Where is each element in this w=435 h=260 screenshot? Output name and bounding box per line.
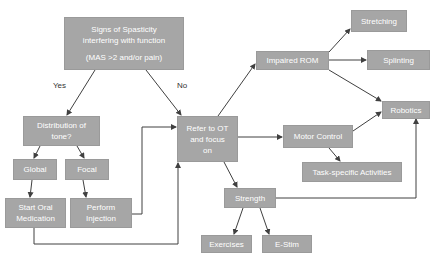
- node-estim-label: E-Stim: [275, 239, 299, 250]
- edge-label-yes: Yes: [53, 81, 66, 90]
- edge-signs-distribution: [67, 70, 95, 115]
- node-task-label: Task-specific Activities: [312, 167, 391, 178]
- edge-refer-strength: [224, 162, 237, 187]
- flowchart-canvas: Signs of Spasticity interfering with fun…: [0, 0, 435, 260]
- node-task-specific-activities: Task-specific Activities: [302, 162, 402, 182]
- node-perform-injection: Perform Injection: [70, 198, 132, 228]
- node-signs-line1: Signs of Spasticity: [83, 24, 165, 35]
- node-start-oral-medication: Start Oral Medication: [5, 198, 66, 228]
- edge-strength-exercises: [234, 208, 243, 234]
- edge-focal-injection: [83, 180, 86, 197]
- node-signs-of-spasticity: Signs of Spasticity interfering with fun…: [64, 17, 184, 70]
- node-motor-control: Motor Control: [283, 125, 353, 148]
- node-refer-line2: and focus: [187, 134, 229, 145]
- node-impaired-rom: Impaired ROM: [256, 51, 329, 70]
- node-robotics-label: Robotics: [390, 105, 421, 116]
- edge-rom-stretching: [329, 29, 350, 52]
- node-focal-label: Focal: [77, 164, 97, 175]
- edge-motor-task: [329, 148, 340, 161]
- node-global-label: Global: [23, 164, 46, 175]
- node-injection-line2: Injection: [86, 213, 116, 224]
- node-robotics: Robotics: [382, 101, 430, 119]
- node-strength-label: Strength: [235, 193, 265, 204]
- node-stretching: Stretching: [351, 10, 407, 32]
- edge-global-oral: [30, 180, 32, 197]
- node-oral-line2: Medication: [16, 213, 55, 224]
- node-signs-line2: interfering with function: [83, 35, 165, 46]
- node-e-stim: E-Stim: [262, 235, 312, 253]
- node-stretching-label: Stretching: [361, 16, 397, 27]
- edge-refer-rom: [218, 64, 255, 116]
- edge-label-no: No: [177, 81, 187, 90]
- node-refer-line1: Refer to OT: [187, 123, 229, 134]
- node-exercises-label: Exercises: [209, 239, 244, 250]
- edge-strength-estim: [260, 208, 269, 234]
- node-splinting: Splinting: [367, 50, 430, 70]
- node-global: Global: [13, 159, 57, 180]
- node-exercises: Exercises: [201, 235, 252, 253]
- node-distribution-line1: Distribution of: [37, 120, 86, 131]
- edge-motor-robotics: [353, 112, 381, 131]
- edge-distribution-focal: [77, 146, 84, 158]
- node-splinting-label: Splinting: [383, 55, 414, 66]
- node-motor-label: Motor Control: [294, 131, 342, 142]
- node-signs-line4: (MAS >2 and/or pain): [83, 52, 165, 63]
- node-oral-line1: Start Oral: [16, 202, 55, 213]
- edge-rom-robotics: [329, 70, 381, 101]
- node-refer-line3: on: [187, 145, 229, 156]
- node-strength: Strength: [224, 188, 276, 208]
- node-refer-to-ot: Refer to OT and focus on: [177, 116, 238, 162]
- edge-distribution-global: [34, 146, 40, 158]
- node-distribution-line2: tone?: [37, 131, 86, 142]
- node-rom-label: Impaired ROM: [266, 55, 318, 66]
- edge-injection-refer: [132, 127, 176, 214]
- node-injection-line1: Perform: [86, 202, 116, 213]
- node-focal: Focal: [65, 159, 109, 180]
- edge-signs-refer: [146, 70, 181, 115]
- node-distribution-of-tone: Distribution of tone?: [23, 116, 100, 146]
